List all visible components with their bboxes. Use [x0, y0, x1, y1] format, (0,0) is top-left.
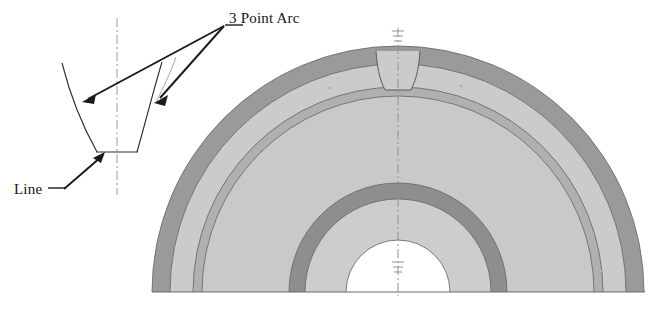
detail-left-arc [62, 63, 97, 152]
label-three-point-arc: 3 Point Arc [229, 10, 300, 27]
leader-line-right-arc [160, 26, 224, 98]
leader-line-left-arc [88, 26, 224, 99]
leader-line-to-bottom [64, 157, 101, 189]
drawing-canvas: 3 Point Arc Line [0, 0, 649, 310]
slot-detail-enlarged [0, 0, 649, 310]
label-line: Line [14, 181, 42, 198]
detail-right-arc [137, 62, 162, 152]
arrowhead-left-arc [82, 94, 96, 104]
leader-guide-curve [156, 57, 176, 102]
leader-line-callout [48, 152, 105, 189]
leader-three-point-arc [82, 25, 243, 106]
